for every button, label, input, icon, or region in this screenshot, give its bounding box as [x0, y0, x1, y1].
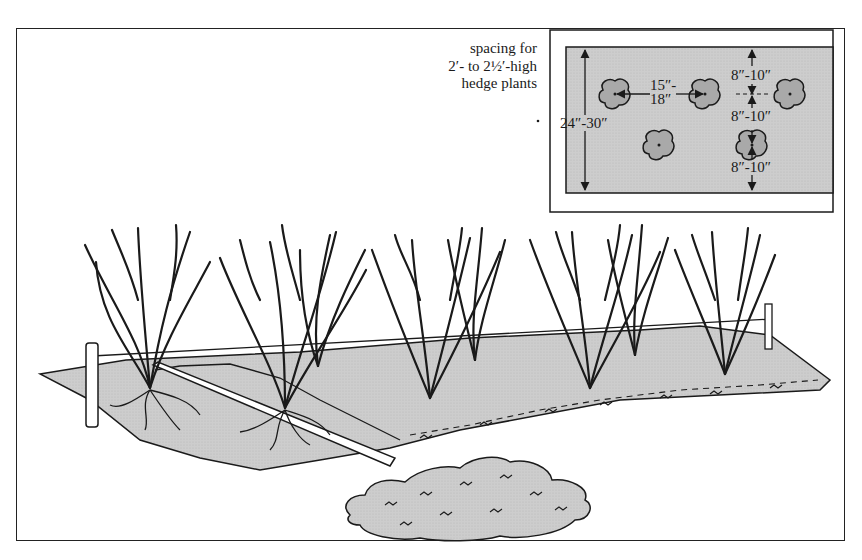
row-spacing-label-bottom: 18″ — [650, 91, 671, 107]
hedge-planting-illustration: 24″-30″ 15″- 18″ 8″-10″ 8″-10″ 8″-10″ — [0, 0, 862, 560]
offset-label-1: 8″-10″ — [731, 67, 771, 83]
stake-left — [86, 343, 98, 427]
spacing-inset: 24″-30″ 15″- 18″ 8″-10″ 8″-10″ 8″-10″ — [550, 30, 833, 212]
offset-label-3: 8″-10″ — [731, 159, 771, 175]
height-label: 24″-30″ — [560, 115, 608, 131]
mulch-pile — [346, 457, 590, 540]
plant-3 — [300, 235, 365, 366]
offset-label-2: 8″-10″ — [731, 108, 771, 124]
stake-right — [765, 304, 772, 349]
